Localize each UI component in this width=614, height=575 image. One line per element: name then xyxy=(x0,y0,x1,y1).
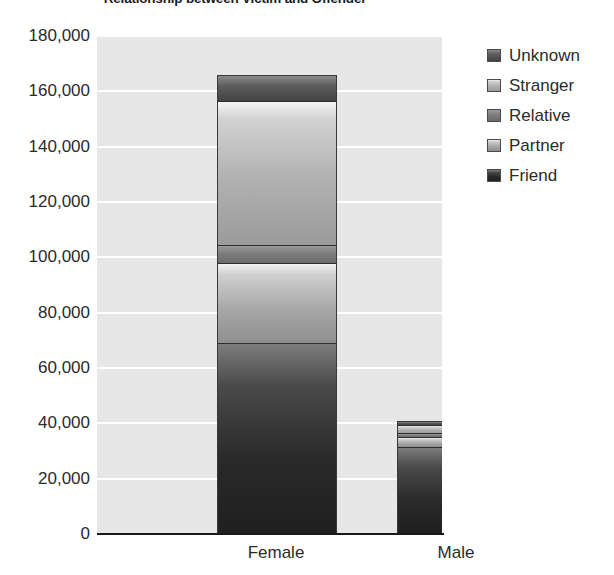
gridline xyxy=(97,36,442,37)
legend-item-friend[interactable]: Friend xyxy=(487,160,612,190)
legend-item-unknown[interactable]: Unknown xyxy=(487,40,612,70)
x-tick-label-male: Male xyxy=(376,543,536,563)
legend-item-label: Stranger xyxy=(509,77,574,94)
legend-swatch-icon xyxy=(487,49,501,62)
legend-swatch-icon xyxy=(487,139,501,152)
y-tick-label: 160,000 xyxy=(4,81,90,101)
legend-item-label: Unknown xyxy=(509,47,580,64)
bar-segment-male-stranger xyxy=(398,426,442,434)
legend-item-label: Partner xyxy=(509,137,565,154)
bar-male xyxy=(397,421,442,534)
y-tick-label: 80,000 xyxy=(4,303,90,323)
y-tick-label: 180,000 xyxy=(4,26,90,46)
bar-segment-female-friend xyxy=(218,344,336,534)
legend-swatch-icon xyxy=(487,79,501,92)
x-tick-label-female: Female xyxy=(196,543,356,563)
legend-item-relative[interactable]: Relative xyxy=(487,100,612,130)
y-tick-label: 120,000 xyxy=(4,192,90,212)
y-axis: 180,000160,000140,000120,000100,00080,00… xyxy=(0,0,90,575)
y-tick-label: 0 xyxy=(4,524,90,544)
bar-female xyxy=(217,75,337,534)
legend-item-label: Relative xyxy=(509,107,570,124)
y-tick-label: 40,000 xyxy=(4,413,90,433)
legend-item-partner[interactable]: Partner xyxy=(487,130,612,160)
plot-area xyxy=(97,36,442,534)
bar-segment-male-partner xyxy=(398,438,442,448)
y-tick-label: 20,000 xyxy=(4,469,90,489)
bar-segment-female-stranger xyxy=(218,102,336,246)
legend-swatch-icon xyxy=(487,169,501,182)
legend-swatch-icon xyxy=(487,109,501,122)
bar-segment-female-relative xyxy=(218,246,336,264)
legend-item-label: Friend xyxy=(509,167,557,184)
bar-segment-female-partner xyxy=(218,264,336,344)
legend-item-stranger[interactable]: Stranger xyxy=(487,70,612,100)
legend: UnknownStrangerRelativePartnerFriend xyxy=(487,40,612,190)
x-axis-line xyxy=(97,533,444,535)
y-tick-label: 140,000 xyxy=(4,137,90,157)
bar-segment-female-unknown xyxy=(218,76,336,102)
y-tick-label: 60,000 xyxy=(4,358,90,378)
bar-segment-male-friend xyxy=(398,448,442,534)
y-tick-label: 100,000 xyxy=(4,247,90,267)
chart-container: Relationship between Victim and Offender… xyxy=(0,0,614,575)
